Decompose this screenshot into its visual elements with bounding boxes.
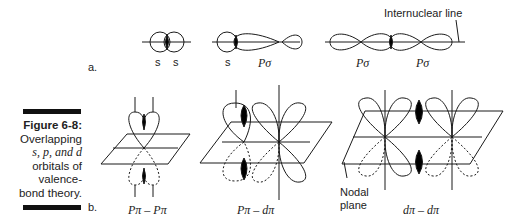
p-sigma-p-sigma-overlap-diagram (325, 20, 465, 50)
figure-6-8: Figure 6-8: Overlapping s, p, and d orbi… (0, 0, 527, 221)
s-s-overlap-diagram (142, 32, 191, 52)
p-pi-p-pi-overlap-diagram (101, 97, 190, 197)
d-pi-d-pi-overlap-diagram (342, 90, 503, 190)
s-p-sigma-overlap-diagram (212, 32, 302, 52)
p-pi-d-pi-overlap-diagram (200, 85, 332, 200)
orbital-diagrams (0, 0, 527, 221)
